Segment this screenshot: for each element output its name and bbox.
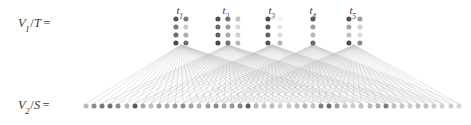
bottom-row-node bbox=[92, 104, 97, 109]
bottom-row-node bbox=[343, 104, 348, 109]
cluster-node bbox=[235, 16, 240, 21]
bottom-row-node bbox=[197, 104, 202, 109]
cluster-label-subscript: 3 bbox=[271, 12, 275, 21]
bottom-row-node bbox=[148, 104, 153, 109]
bottom-row-node bbox=[448, 104, 453, 109]
cluster-node bbox=[225, 40, 230, 45]
bottom-row-node bbox=[229, 104, 234, 109]
bottom-row-node bbox=[432, 104, 437, 109]
top-axis-set: T bbox=[34, 16, 41, 30]
cluster-node bbox=[225, 24, 230, 29]
bottom-row-node bbox=[327, 104, 332, 109]
figure-canvas: t1t2t3t4t5 V1/T= V2/S= bbox=[0, 0, 471, 125]
bottom-row-node bbox=[165, 104, 170, 109]
bottom-row-node bbox=[189, 104, 194, 109]
bottom-row-node bbox=[367, 104, 372, 109]
bottom-row-node bbox=[424, 104, 429, 109]
cluster-node bbox=[357, 32, 362, 37]
cluster-node bbox=[183, 32, 188, 37]
cluster-node bbox=[235, 32, 240, 37]
cluster-node bbox=[346, 24, 351, 29]
cluster-node bbox=[265, 24, 270, 29]
cluster-node bbox=[310, 24, 315, 29]
cluster-node bbox=[357, 16, 362, 21]
bottom-axis-set: S bbox=[34, 98, 40, 112]
bottom-axis-subscript: 2 bbox=[25, 106, 29, 116]
bottom-row-node bbox=[124, 104, 129, 109]
cluster-node bbox=[215, 24, 220, 29]
cluster-node bbox=[183, 40, 188, 45]
cluster-node bbox=[173, 24, 178, 29]
cluster-node bbox=[215, 32, 220, 37]
bottom-row-node bbox=[302, 104, 307, 109]
cluster-node bbox=[277, 16, 282, 21]
cluster-node bbox=[235, 40, 240, 45]
bottom-row-node bbox=[108, 104, 113, 109]
bottom-row-node bbox=[375, 104, 380, 109]
bottom-row-node bbox=[116, 104, 121, 109]
cluster-node bbox=[215, 16, 220, 21]
node-layer: t1t2t3t4t5 bbox=[0, 0, 471, 125]
bottom-row-node bbox=[205, 104, 210, 109]
bottom-row-node bbox=[140, 104, 145, 109]
bottom-row-node bbox=[351, 104, 356, 109]
bottom-row-node bbox=[335, 104, 340, 109]
bottom-row-node bbox=[391, 104, 396, 109]
bottom-row-node bbox=[237, 104, 242, 109]
cluster-node bbox=[310, 40, 315, 45]
bottom-axis-label: V2/S= bbox=[18, 98, 50, 115]
cluster-node bbox=[277, 32, 282, 37]
cluster-node bbox=[277, 40, 282, 45]
bottom-row-node bbox=[456, 104, 461, 109]
cluster-node bbox=[173, 16, 178, 21]
cluster-node bbox=[265, 40, 270, 45]
cluster-node bbox=[310, 32, 315, 37]
bottom-row-node bbox=[440, 104, 445, 109]
bottom-row-node bbox=[254, 104, 259, 109]
bottom-row-node bbox=[359, 104, 364, 109]
bottom-row-node bbox=[221, 104, 226, 109]
bottom-row-node bbox=[173, 104, 178, 109]
bottom-row-node bbox=[181, 104, 186, 109]
top-axis-equals: = bbox=[43, 16, 50, 30]
bottom-row-node bbox=[310, 104, 315, 109]
top-axis-label: V1/T= bbox=[18, 16, 50, 33]
bottom-row-node bbox=[246, 104, 251, 109]
bottom-row-node bbox=[416, 104, 421, 109]
cluster-node bbox=[357, 24, 362, 29]
cluster-node bbox=[265, 16, 270, 21]
cluster-node bbox=[183, 24, 188, 29]
bottom-row-node bbox=[286, 104, 291, 109]
bottom-row-node bbox=[318, 104, 323, 109]
cluster-node bbox=[265, 32, 270, 37]
bottom-axis-equals: = bbox=[42, 98, 49, 112]
bottom-row-node bbox=[84, 104, 89, 109]
cluster-label-subscript: 5 bbox=[352, 12, 356, 21]
cluster-node bbox=[225, 32, 230, 37]
cluster-node bbox=[173, 32, 178, 37]
bottom-row-node bbox=[100, 104, 105, 109]
bottom-row-node bbox=[156, 104, 161, 109]
cluster-node bbox=[346, 40, 351, 45]
cluster-node bbox=[225, 16, 230, 21]
cluster-node bbox=[173, 40, 178, 45]
bottom-row-node bbox=[383, 104, 388, 109]
cluster-node bbox=[215, 40, 220, 45]
bottom-row-node bbox=[408, 104, 413, 109]
bottom-row-node bbox=[132, 104, 137, 109]
cluster-node bbox=[357, 40, 362, 45]
cluster-node bbox=[183, 16, 188, 21]
bottom-row-node bbox=[270, 104, 275, 109]
top-axis-subscript: 1 bbox=[25, 24, 29, 34]
cluster-node bbox=[235, 24, 240, 29]
bottom-row-node bbox=[262, 104, 267, 109]
cluster-node bbox=[277, 24, 282, 29]
cluster-node bbox=[346, 32, 351, 37]
bottom-row-node bbox=[399, 104, 404, 109]
bottom-row-node bbox=[213, 104, 218, 109]
bottom-row-node bbox=[294, 104, 299, 109]
cluster-node bbox=[346, 16, 351, 21]
bottom-row-node bbox=[278, 104, 283, 109]
